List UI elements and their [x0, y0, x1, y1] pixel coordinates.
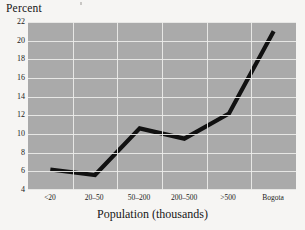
plot-area	[28, 22, 296, 190]
x-tick-label: 200–500	[171, 193, 197, 202]
y-tick-label: 14	[4, 93, 25, 101]
y-tick-label: 10	[4, 130, 25, 138]
y-tick-label: 6	[4, 167, 25, 175]
chart-figure: Percent 22 20 18 16 14 12 10 8 6 4 <20 2	[0, 0, 305, 230]
x-tick-label: <20	[44, 193, 56, 202]
y-tick-label: 18	[4, 55, 25, 63]
y-tick-label: 12	[4, 111, 25, 119]
x-tick-label: Bogota	[262, 193, 284, 202]
gridline-vertical	[207, 22, 208, 190]
y-tick-label: 8	[4, 149, 25, 157]
x-axis-title: Population (thousands)	[0, 207, 305, 222]
gridline-vertical	[73, 22, 74, 190]
x-tick-label: 50–200	[128, 193, 151, 202]
x-tick-label: >500	[220, 193, 235, 202]
y-axis-title: Percent	[6, 2, 42, 14]
y-tick-label: 22	[4, 18, 25, 26]
gridline-vertical	[162, 22, 163, 190]
y-tick-label: 16	[4, 74, 25, 82]
scan-artifact	[80, 2, 82, 5]
x-tick-label: 20–50	[85, 193, 104, 202]
y-tick-label: 4	[4, 186, 25, 194]
gridline-vertical	[251, 22, 252, 190]
y-tick-label: 20	[4, 37, 25, 45]
gridline-vertical	[117, 22, 118, 190]
